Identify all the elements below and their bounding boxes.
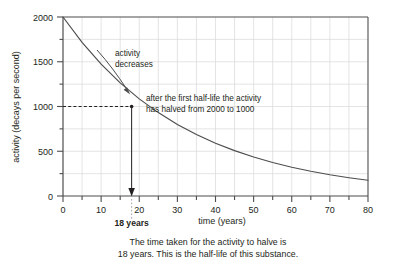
y-tick-label-1500: 1500	[33, 57, 53, 67]
x-axis-ticks	[63, 196, 368, 202]
x-tick-label-40: 40	[210, 205, 220, 215]
annotation-halflife-line2: has halved from 2000 to 1000	[146, 105, 255, 114]
x-tick-label-10: 10	[96, 205, 106, 215]
x-tick-label-30: 30	[172, 205, 182, 215]
half-life-value-label: 18 years	[114, 218, 149, 228]
y-tick-label-1000: 1000	[33, 102, 53, 112]
x-tick-label-20: 20	[134, 205, 144, 215]
x-tick-label-80: 80	[363, 205, 373, 215]
x-tick-label-60: 60	[287, 205, 297, 215]
y-axis-ticks	[57, 17, 63, 196]
y-tick-label-2000: 2000	[33, 13, 53, 23]
annotation-halflife-line1: after the first half-life the activity	[146, 94, 262, 103]
caption-line-2: 18 years. This is the half-life of this …	[118, 249, 298, 259]
caption-line-1: The time taken for the activity to halve…	[130, 237, 288, 247]
half-life-point-marker	[130, 105, 134, 109]
x-tick-label-70: 70	[325, 205, 335, 215]
half-life-decay-figure: 2000 1500 1000 500 0 0 10 20 30 40 50 60…	[0, 0, 416, 264]
chart-svg: 2000 1500 1000 500 0 0 10 20 30 40 50 60…	[0, 0, 416, 264]
annotation-activity-line1: activity	[115, 49, 141, 58]
y-tick-label-500: 500	[38, 147, 53, 157]
x-axis-title: time (years)	[198, 216, 246, 226]
x-tick-label-50: 50	[249, 205, 259, 215]
y-axis-title: activity (decays per second)	[11, 51, 21, 163]
annotation-activity-line2: decreases	[115, 60, 153, 69]
x-tick-label-0: 0	[60, 205, 65, 215]
y-tick-label-0: 0	[48, 192, 53, 202]
